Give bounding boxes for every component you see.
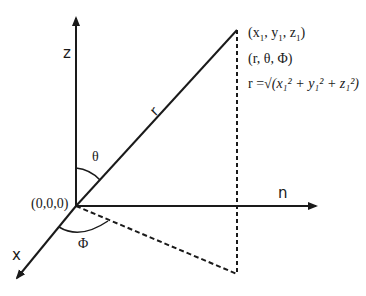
origin-label: (0,0,0) (31, 196, 68, 212)
theta-label: θ (92, 149, 99, 165)
diagram-canvas (0, 0, 366, 296)
x-axis-label: x (12, 246, 21, 264)
phi-label: Φ (78, 236, 88, 252)
z-axis-label: z (63, 44, 71, 62)
point-spherical-label: (r, θ, Φ) (248, 51, 292, 67)
x-axis (17, 206, 76, 278)
formula-rhs: √(x₁² + y₁² + z₁²) (264, 76, 359, 91)
radius-formula: r =√(x₁² + y₁² + z₁²) (248, 76, 359, 92)
point-cartesian-label: (x1, y1, z1) (248, 25, 305, 43)
phi-arc (59, 221, 108, 232)
n-axis-label: n (278, 184, 288, 202)
plane-projection-dashed (76, 206, 237, 274)
formula-lhs: r = (248, 76, 264, 91)
theta-arc (76, 168, 100, 180)
